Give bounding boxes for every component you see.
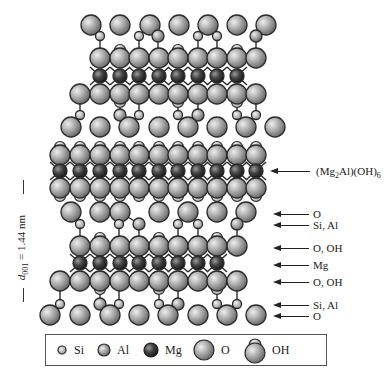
hydroxyl-atom: [70, 178, 90, 198]
hydroxyl-atom: [50, 145, 70, 165]
o-oh-bottom-arrow: [275, 282, 309, 283]
oxygen-atom: [168, 271, 188, 291]
o-bottom-arrow: [275, 316, 309, 317]
oxygen-atom: [90, 202, 110, 222]
oxygen-atom: [227, 15, 247, 35]
hydroxyl-atom: [207, 178, 227, 198]
magnesium-atom: [230, 69, 244, 83]
magnesium-atom: [113, 256, 127, 270]
oxygen-atom: [50, 271, 70, 291]
oxygen-atom: [188, 48, 208, 68]
oxygen-atom: [168, 84, 188, 104]
oxygen-atom: [227, 48, 247, 68]
oxygen-atom: [40, 305, 60, 325]
hydroxyl-atom: [227, 145, 247, 165]
oxygen-atom: [61, 117, 81, 137]
magnesium-atom: [191, 256, 205, 270]
oxygen-atom: [129, 271, 149, 291]
silicon-atom: [76, 220, 85, 229]
magnesium-atom: [171, 164, 185, 178]
hydroxyl-atom: [188, 178, 208, 198]
hydroxyl-atom: [188, 145, 208, 165]
hydroxyl-atom: [246, 145, 266, 165]
mg-atom-icon: [142, 341, 160, 359]
oxygen-atom: [90, 271, 110, 291]
oxygen-atom: [149, 236, 169, 256]
al-atom-icon: [96, 342, 112, 358]
mg-label: Mg: [313, 259, 328, 271]
silicon-atom: [174, 111, 183, 120]
d-spacing-tick-top: [23, 180, 24, 194]
legend-item-si: Si: [56, 335, 84, 365]
hydroxyl-atom: [110, 145, 130, 165]
silicon-atom: [194, 32, 203, 41]
legend-item-al: Al: [96, 335, 129, 365]
oxygen-atom: [246, 305, 266, 325]
oxygen-atom: [149, 84, 169, 104]
magnesium-atom: [152, 256, 166, 270]
d-symbol: d: [15, 275, 27, 281]
legend-label: Si: [74, 343, 84, 358]
silicon-atom: [194, 220, 203, 229]
hydroxyl-atom: [149, 145, 169, 165]
oxygen-atom: [188, 236, 208, 256]
oxygen-atom: [100, 305, 120, 325]
oxygen-atom: [168, 48, 188, 68]
oxygen-atom: [129, 236, 149, 256]
aluminum-atom: [152, 30, 164, 42]
oxygen-atom: [110, 15, 130, 35]
formula-part: Al)(OH): [339, 165, 377, 177]
oxygen-atom: [149, 271, 169, 291]
magnesium-atom: [113, 69, 127, 83]
aluminum-atom: [250, 30, 262, 42]
oxygen-atom: [178, 202, 198, 222]
formula-part: (Mg: [316, 165, 335, 177]
oxygen-atom: [265, 117, 285, 137]
silicon-atom: [213, 32, 222, 41]
legend: Si Al Mg O OH: [45, 334, 327, 366]
hydroxyl-atom: [168, 145, 188, 165]
brucite-arrow: [272, 171, 310, 172]
d-spacing-indicator: d001 = 1.44 nm: [8, 180, 38, 300]
oxygen-atom: [169, 15, 189, 35]
hydroxyl-atom: [110, 178, 130, 198]
magnesium-atom: [249, 164, 263, 178]
magnesium-atom: [93, 256, 107, 270]
oxygen-atom: [110, 236, 130, 256]
oxygen-atom: [149, 48, 169, 68]
magnesium-atom: [152, 164, 166, 178]
d-subscript: 001: [21, 263, 30, 275]
aluminum-atom: [133, 218, 145, 230]
d-spacing-label: d001 = 1.44 nm: [15, 196, 30, 300]
o-oh-top-label: O, OH: [313, 242, 342, 254]
si-al-top-label: Si, Al: [313, 219, 338, 231]
oxygen-atom: [188, 271, 208, 291]
hydroxyl-atom: [50, 178, 70, 198]
hydroxyl-atom: [129, 145, 149, 165]
magnesium-atom: [132, 69, 146, 83]
o-bottom-label: O: [313, 310, 321, 322]
brucite-layer-label: (Mg2Al)(OH)6: [316, 165, 381, 182]
hydroxyl-atom: [90, 145, 110, 165]
magnesium-atom: [132, 164, 146, 178]
oxygen-atom: [207, 271, 227, 291]
oxygen-atom: [90, 117, 110, 137]
oxygen-atom: [149, 202, 169, 222]
legend-label: Al: [117, 343, 129, 358]
magnesium-atom: [171, 256, 185, 270]
oxygen-atom: [70, 271, 90, 291]
oxygen-atom: [227, 236, 247, 256]
oxygen-atom: [129, 84, 149, 104]
magnesium-atom: [191, 69, 205, 83]
hydroxyl-atom: [70, 145, 90, 165]
hydroxyl-atom: [129, 178, 149, 198]
aluminum-atom: [231, 218, 243, 230]
oxygen-atom: [110, 84, 130, 104]
oxygen-atom: [246, 84, 266, 104]
hydroxyl-atom: [168, 178, 188, 198]
hydroxyl-atom: [227, 178, 247, 198]
legend-item-o: O: [192, 335, 230, 365]
silicon-atom: [252, 111, 261, 120]
magnesium-atom: [93, 164, 107, 178]
si-atom-icon: [56, 344, 68, 356]
